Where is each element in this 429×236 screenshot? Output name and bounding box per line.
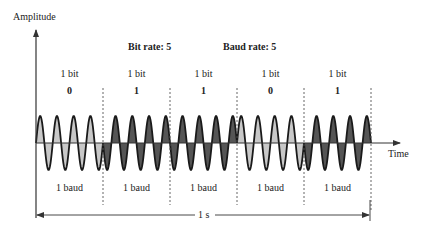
baud-label: 1 baud — [123, 182, 150, 193]
bit-value: 1 — [201, 85, 206, 96]
duration-label: 1 s — [198, 209, 210, 220]
baud-label: 1 baud — [324, 182, 351, 193]
baud-rate-label: Baud rate: 5 — [223, 41, 276, 52]
bit-label: 1 bit — [261, 68, 279, 79]
bit-label: 1 bit — [328, 68, 346, 79]
bit-value: 0 — [268, 85, 273, 96]
bit-rate-label: Bit rate: 5 — [128, 41, 171, 52]
bit-label: 1 bit — [60, 68, 78, 79]
bit-value: 1 — [134, 85, 139, 96]
segment-labels: 1 bit01 baud1 bit11 baud1 bit11 baud1 bi… — [56, 68, 351, 193]
bit-label: 1 bit — [194, 68, 212, 79]
baud-label: 1 baud — [190, 182, 217, 193]
baud-label: 1 baud — [56, 182, 83, 193]
bit-value: 1 — [335, 85, 340, 96]
time-label: Time — [388, 148, 409, 159]
amplitude-label: Amplitude — [13, 11, 56, 22]
baud-label: 1 baud — [257, 182, 284, 193]
bit-label: 1 bit — [127, 68, 145, 79]
psk-bit-baud-diagram: Amplitude Time Bit rate: 5 Baud rate: 5 … — [0, 0, 429, 236]
bit-value: 0 — [67, 85, 72, 96]
